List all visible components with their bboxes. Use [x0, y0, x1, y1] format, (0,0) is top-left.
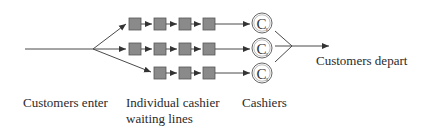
customer-icon: [179, 43, 191, 55]
cashier-3: C 3: [252, 63, 272, 83]
customer-icon: [154, 43, 166, 55]
customer-icon: [129, 18, 141, 30]
cashier-1: C 1: [252, 13, 272, 33]
customers-enter-label: Customers enter: [23, 95, 108, 111]
customer-icon: [154, 18, 166, 30]
customer-icon: [154, 67, 166, 79]
branch-arrow-3: [93, 49, 151, 72]
queue-label-line2: waiting lines: [126, 111, 193, 127]
branch-arrow-1: [93, 24, 126, 49]
merge-line-1: [275, 31, 292, 46]
waiting-line-1: [129, 18, 250, 30]
queue-label-line1: Individual cashier: [126, 95, 220, 111]
customers-depart-label: Customers depart: [316, 53, 407, 69]
waiting-line-3: [154, 67, 250, 79]
waiting-line-2: [129, 43, 250, 55]
customer-icon: [203, 67, 215, 79]
customer-icon: [129, 43, 141, 55]
merge-line-3: [275, 46, 292, 62]
customer-icon: [203, 43, 215, 55]
customer-icon: [179, 67, 191, 79]
cashiers-label: Cashiers: [242, 95, 287, 111]
customer-icon: [203, 18, 215, 30]
cashier-2: C 2: [252, 38, 272, 58]
customer-icon: [179, 18, 191, 30]
